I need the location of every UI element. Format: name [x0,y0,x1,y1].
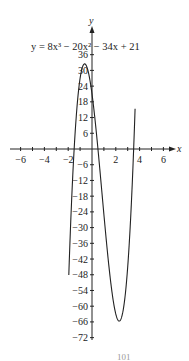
y-tick-label: −24 [72,206,88,217]
y-tick-label: −18 [72,191,88,202]
x-axis-arrow-icon [169,147,176,152]
y-tick-label: −54 [72,285,88,296]
x-axis-label: x [176,143,182,154]
y-axis-label: y [88,15,94,26]
y-tick-label: −42 [72,254,88,265]
x-tick-label: −6 [15,154,26,165]
y-tick-label: −36 [72,238,88,249]
x-tick-label: −4 [39,154,50,165]
y-tick-label: −12 [72,175,88,186]
y-tick-label: −30 [72,222,88,233]
y-tick-label: 18 [78,96,88,107]
y-axis-arrow-icon [90,26,95,33]
y-tick-label: 12 [78,112,88,123]
y-tick-label: −72 [72,332,88,343]
x-tick-label: −2 [63,154,74,165]
axes: xy−6−4−224636302418126−6−12−18−24−30−36−… [10,15,182,343]
y-tick-label: −60 [72,301,88,312]
y-tick-label: −6 [77,159,88,170]
cropped-footer-text: 101 [0,352,189,361]
y-tick-label: 6 [83,128,88,139]
x-tick-label: 2 [113,154,118,165]
equation-label: y = 8x³ − 20x² − 34x + 21 [31,41,140,52]
x-tick-label: 6 [161,154,166,165]
x-tick-label: 4 [137,154,142,165]
y-tick-label: −66 [72,316,88,327]
y-tick-label: −48 [72,269,88,280]
cubic-function-graph: xy−6−4−224636302418126−6−12−18−24−30−36−… [0,0,189,361]
